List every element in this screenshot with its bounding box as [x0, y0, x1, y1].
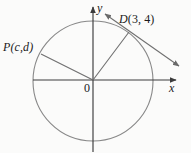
radius-to-p-segment [41, 54, 93, 80]
radius-to-d-segment [93, 32, 129, 80]
x-axis-label: x [169, 82, 174, 94]
geometry-figure: y x 0 D(3, 4) P(c,d) [0, 0, 191, 153]
point-p-label: P(c,d) [3, 41, 33, 53]
y-axis-label: y [97, 2, 102, 14]
point-d-label: D(3, 4) [119, 13, 154, 25]
point-d-coordinates: (3, 4) [128, 12, 155, 26]
point-d-name: D [119, 12, 128, 26]
origin-label: 0 [84, 82, 90, 94]
figure-canvas [0, 0, 191, 153]
